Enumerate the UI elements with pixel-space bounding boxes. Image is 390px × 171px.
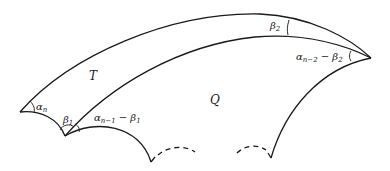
arc-e-to-c bbox=[271, 58, 371, 158]
dashed-arc-left bbox=[158, 147, 195, 155]
hyperbolic-polygon-diagram: T Q αn β1 αn−1 − β1 β2 αn−2 − β2 bbox=[0, 0, 390, 171]
region-label-q: Q bbox=[210, 93, 220, 107]
angle-label-alpha-n2-minus-beta-2: αn−2 − β2 bbox=[296, 51, 343, 64]
region-label-t: T bbox=[89, 69, 98, 83]
angle-arc-alpha-n2 bbox=[350, 51, 352, 61]
angle-label-alpha-n: αn bbox=[36, 101, 48, 114]
outer-arc bbox=[20, 14, 371, 112]
angle-label-beta-2: β2 bbox=[269, 20, 281, 33]
cusp-e bbox=[268, 153, 271, 158]
arc-b-to-d bbox=[65, 127, 151, 162]
angle-label-alpha-n1-minus-beta-1: αn−1 − β1 bbox=[94, 112, 141, 125]
dashed-arc-right bbox=[237, 146, 266, 153]
cusp-d bbox=[151, 157, 155, 162]
arc-a-to-b bbox=[20, 112, 65, 136]
angle-arc-beta-2 bbox=[287, 20, 289, 35]
angle-arc-alpha-n bbox=[30, 101, 34, 113]
